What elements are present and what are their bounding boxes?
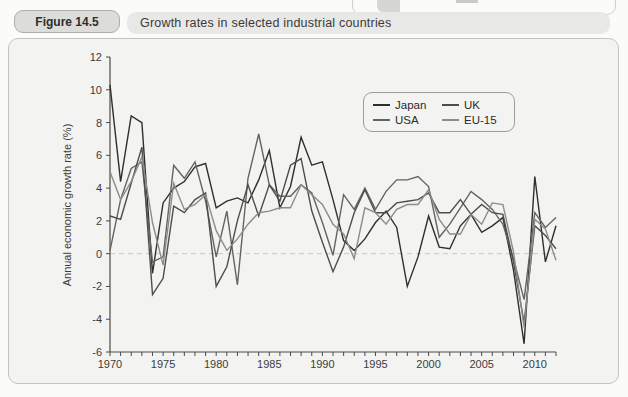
- series-line-eu-15: [110, 157, 556, 327]
- legend-label: Japan: [395, 99, 426, 111]
- legend: JapanUKUSAEU-15: [363, 92, 515, 132]
- y-tick-label: 0: [96, 248, 102, 260]
- legend-line-swatch: [373, 119, 390, 121]
- growth-rates-chart: -6-4-20246810121970197519801985199019952…: [0, 0, 628, 397]
- y-tick-label: 12: [90, 51, 102, 63]
- y-tick-label: 4: [96, 182, 102, 194]
- y-tick-label: 8: [96, 117, 102, 129]
- y-tick-label: 2: [96, 215, 102, 227]
- series-line-uk: [110, 147, 556, 322]
- x-tick-label: 1980: [204, 358, 228, 370]
- y-tick-label: 10: [90, 84, 102, 96]
- y-tick-label: 6: [96, 149, 102, 161]
- x-tick-label: 2010: [523, 358, 547, 370]
- x-tick-label: 1970: [98, 358, 122, 370]
- x-tick-label: 2005: [469, 358, 493, 370]
- legend-item-japan: Japan: [373, 99, 436, 111]
- y-axis-title: Annual economic growth rate (%): [61, 55, 77, 355]
- legend-label: USA: [395, 114, 419, 126]
- legend-item-eu-15: EU-15: [442, 114, 505, 126]
- y-tick-label: -4: [92, 313, 102, 325]
- legend-label: EU-15: [464, 114, 497, 126]
- legend-line-swatch: [442, 119, 459, 121]
- legend-line-swatch: [442, 104, 459, 106]
- x-tick-label: 1990: [310, 358, 334, 370]
- y-tick-label: -2: [92, 280, 102, 292]
- series-line-usa: [110, 134, 556, 300]
- x-tick-label: 1975: [151, 358, 175, 370]
- x-tick-label: 1995: [363, 358, 387, 370]
- legend-item-uk: UK: [442, 99, 505, 111]
- legend-item-usa: USA: [373, 114, 436, 126]
- legend-line-swatch: [373, 104, 390, 106]
- x-tick-label: 2000: [416, 358, 440, 370]
- x-tick-label: 1985: [257, 358, 281, 370]
- legend-label: UK: [464, 99, 480, 111]
- y-tick-label: -6: [92, 346, 102, 358]
